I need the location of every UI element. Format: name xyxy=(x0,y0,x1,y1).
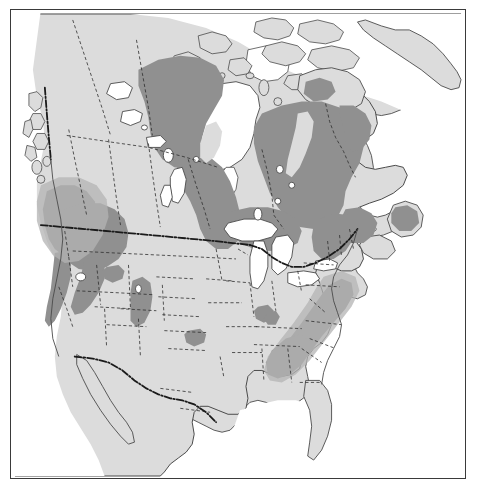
lake-ontario xyxy=(314,259,338,271)
inland-lake-small-3 xyxy=(276,165,283,173)
inland-lake-small-6 xyxy=(135,285,141,293)
map-frame xyxy=(10,9,466,479)
inland-lake-small-1 xyxy=(141,125,147,130)
lake-nipigon xyxy=(254,208,262,220)
reindeer-lake xyxy=(163,148,173,162)
great-salt-lake xyxy=(76,273,86,281)
lake-superior xyxy=(224,219,278,241)
inland-lake-small-4 xyxy=(289,182,295,188)
north-america-range-map xyxy=(11,10,465,478)
inland-lake-small-5 xyxy=(275,198,281,204)
figure-canvas: Shaded distribution map of North America… xyxy=(0,0,478,490)
